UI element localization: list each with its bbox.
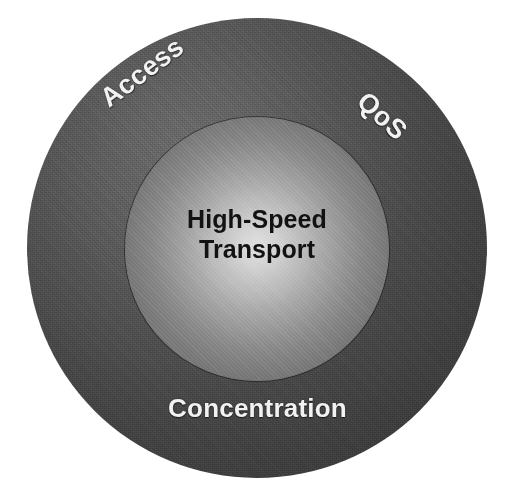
core-label: High-Speed Transport: [125, 205, 389, 264]
diagram-canvas: Access QoS Concentration High-Speed Tran…: [0, 0, 515, 501]
core-label-line-1: High-Speed: [125, 205, 389, 235]
ring-label-concentration: Concentration: [0, 393, 515, 424]
core-label-line-2: Transport: [125, 235, 389, 265]
